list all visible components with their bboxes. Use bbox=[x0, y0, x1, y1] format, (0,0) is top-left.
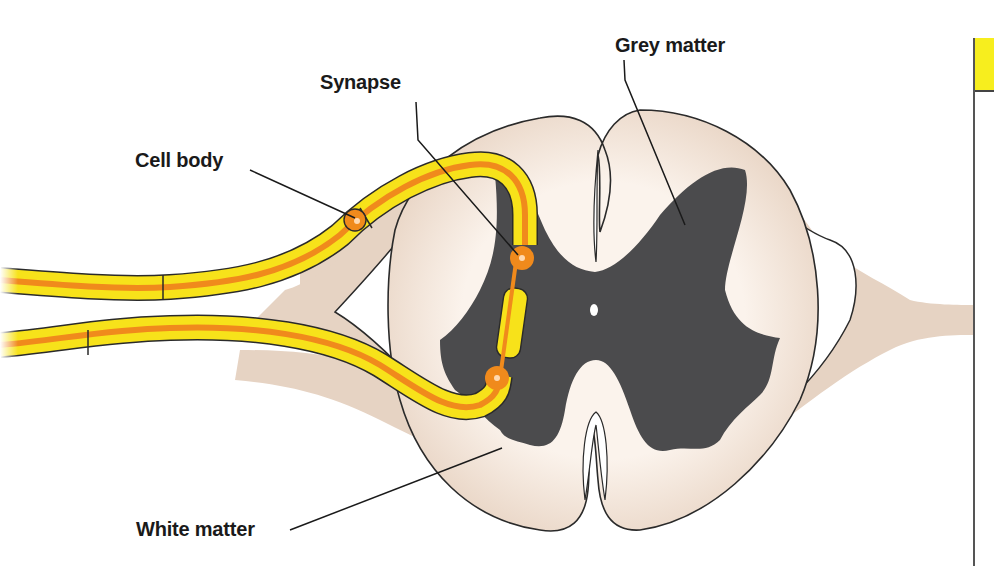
label-cell-body: Cell body bbox=[135, 149, 223, 172]
side-panel bbox=[973, 38, 994, 566]
cell-body bbox=[344, 209, 366, 231]
label-grey-matter: Grey matter bbox=[615, 34, 725, 57]
side-panel-header bbox=[975, 38, 994, 92]
label-white-matter: White matter bbox=[136, 518, 255, 541]
synapse-lower bbox=[485, 366, 509, 390]
label-synapse: Synapse bbox=[320, 71, 401, 94]
leader-line-cell-body bbox=[250, 170, 355, 218]
central-canal bbox=[590, 304, 598, 316]
left-edge-fade bbox=[0, 250, 18, 370]
